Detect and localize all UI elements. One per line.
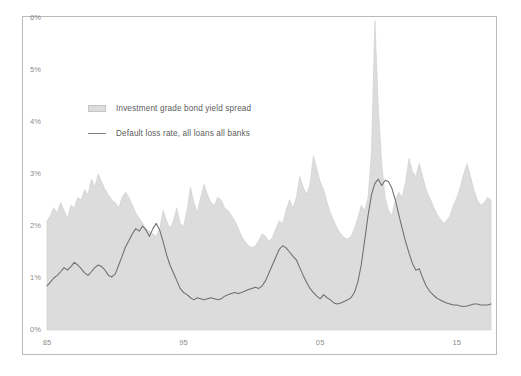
chart-figure: 0%1%2%3%4%5%6% 85950515 Investment grade… bbox=[0, 0, 521, 376]
x-tick-label: 05 bbox=[308, 338, 332, 347]
area-swatch-icon bbox=[88, 105, 106, 112]
y-tick-label: 5% bbox=[30, 65, 41, 74]
y-tick-label: 1% bbox=[30, 273, 41, 282]
y-tick-label: 6% bbox=[30, 13, 41, 22]
y-tick-label: 4% bbox=[30, 117, 41, 126]
y-tick-label: 0% bbox=[30, 325, 41, 334]
legend-label-default-loss-rate: Default loss rate, all loans all banks bbox=[116, 129, 250, 138]
line-swatch-icon bbox=[88, 130, 106, 137]
y-tick-label: 2% bbox=[30, 221, 41, 230]
x-tick-label: 15 bbox=[445, 338, 469, 347]
y-tick-label: 3% bbox=[30, 169, 41, 178]
legend-item-default-loss-rate: Default loss rate, all loans all banks bbox=[88, 124, 338, 142]
legend-item-investment-grade-spread: Investment grade bond yield spread bbox=[88, 99, 338, 117]
x-tick-label: 85 bbox=[35, 338, 59, 347]
x-tick-label: 95 bbox=[172, 338, 196, 347]
chart-legend: Investment grade bond yield spread Defau… bbox=[88, 99, 338, 149]
legend-label-investment-grade-spread: Investment grade bond yield spread bbox=[116, 104, 251, 113]
chart-frame-border bbox=[22, 16, 497, 355]
